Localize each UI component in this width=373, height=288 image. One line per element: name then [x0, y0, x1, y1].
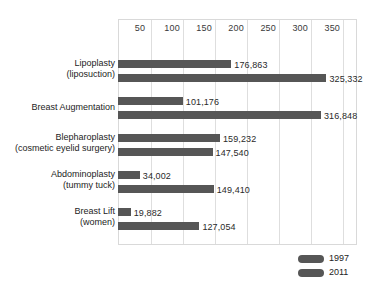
legend-item[interactable]: 2011 [298, 266, 370, 280]
bar-1997[interactable] [118, 134, 220, 142]
bar-2011[interactable] [118, 111, 321, 119]
bar-value-label: 159,232 [223, 135, 256, 143]
bar-1997[interactable] [118, 208, 131, 216]
bar-value-label: 34,002 [143, 172, 171, 180]
category-label: Breast Augmentation [31, 102, 115, 113]
category-label: Breast Lift(women) [74, 206, 115, 228]
category-label-line1: Lipoplasty [66, 58, 115, 69]
category-label-line1: Abdominoplasty [51, 169, 115, 180]
bar-value-label: 101,176 [186, 98, 219, 106]
bar-2011[interactable] [118, 74, 326, 82]
bar-2011[interactable] [118, 222, 199, 230]
category-label: Abdominoplasty(tummy tuck) [51, 169, 115, 191]
bar-value-label: 176,863 [234, 61, 267, 69]
category-label: Lipoplasty(liposuction) [66, 58, 115, 80]
legend-swatch-1997 [298, 255, 324, 263]
legend-item[interactable]: 1997 [298, 252, 370, 266]
category-label-line2: (cosmetic eyelid surgery) [15, 143, 115, 154]
bars-layer: 176,863325,332101,176316,848159,232147,5… [118, 19, 357, 245]
bar-1997[interactable] [118, 171, 140, 179]
y-axis-category-labels: Lipoplasty(liposuction)Breast Augmentati… [0, 19, 117, 245]
bar-value-label: 147,540 [216, 149, 249, 157]
legend-label-2011: 2011 [329, 266, 348, 279]
bar-2011[interactable] [118, 185, 214, 193]
category-label-line2: (liposuction) [66, 69, 115, 80]
category-label-line1: Breast Augmentation [31, 102, 115, 113]
category-label: Blepharoplasty(cosmetic eyelid surgery) [15, 132, 115, 154]
legend-label-1997: 1997 [329, 252, 349, 265]
legend-swatch-2011 [298, 269, 324, 277]
bar-value-label: 325,332 [329, 75, 362, 83]
bar-value-label: 127,054 [202, 223, 235, 231]
bar-2011[interactable] [118, 148, 213, 156]
bar-1997[interactable] [118, 97, 183, 105]
category-label-line2: (women) [74, 217, 115, 228]
chart-legend: 1997 2011 [298, 252, 370, 280]
bar-1997[interactable] [118, 60, 231, 68]
category-label-line2: (tummy tuck) [51, 180, 115, 191]
bar-chart: 50100150200250300350 Lipoplasty(liposuct… [0, 0, 373, 288]
category-label-line1: Breast Lift [74, 206, 115, 217]
bar-value-label: 316,848 [324, 112, 357, 120]
bar-value-label: 149,410 [217, 186, 250, 194]
bar-value-label: 19,882 [134, 209, 162, 217]
category-label-line1: Blepharoplasty [15, 132, 115, 143]
